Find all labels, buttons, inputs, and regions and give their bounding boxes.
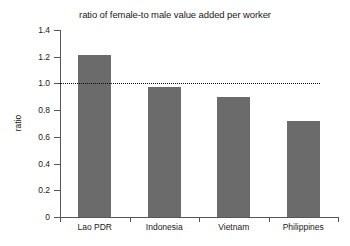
bar-vietnam [217, 97, 250, 217]
y-axis-tick-label: 0.8 [22, 105, 50, 115]
bar-lao-pdr [78, 55, 111, 217]
y-axis-tick-label: 1.4 [22, 25, 50, 35]
y-axis-tick-label: 0.2 [22, 185, 50, 195]
x-axis-tick [269, 217, 270, 222]
y-axis-tick-labels: 00.20.40.60.81.01.21.4 [20, 0, 50, 246]
x-axis-tick-label: Vietnam [218, 222, 249, 232]
x-axis-tick-label: Philippines [283, 222, 324, 232]
bar-philippines [287, 121, 320, 217]
x-axis-tick [338, 217, 339, 222]
y-axis-tick-label: 0.4 [22, 159, 50, 169]
y-axis-tick [54, 164, 60, 165]
bar-chart-figure: ratio of female-to male value added per … [0, 0, 350, 246]
bar-indonesia [148, 87, 181, 217]
x-axis-tick-label: Indonesia [146, 222, 183, 232]
y-axis-tick-label: 0.6 [22, 132, 50, 142]
x-axis-tick [130, 217, 131, 222]
y-axis-tick [54, 110, 60, 111]
y-axis-tick-label: 0 [22, 212, 50, 222]
y-axis-tick [54, 190, 60, 191]
y-axis-tick-label: 1.2 [22, 52, 50, 62]
x-axis-tick-label: Lao PDR [78, 222, 113, 232]
x-axis-tick [199, 217, 200, 222]
parity-reference-line [60, 83, 320, 84]
y-axis-tick [54, 137, 60, 138]
y-axis-tick [54, 57, 60, 58]
x-axis-tick [60, 217, 61, 222]
y-axis-tick-label: 1.0 [22, 78, 50, 88]
y-axis-tick [54, 30, 60, 31]
chart-title: ratio of female-to male value added per … [0, 9, 350, 20]
